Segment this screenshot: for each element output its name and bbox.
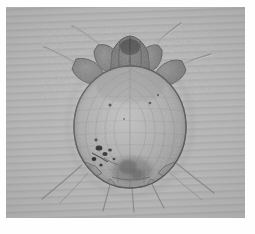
plate-border-left: [0, 0, 6, 234]
mite-specimen: [6, 7, 245, 218]
photomicrograph-page: [0, 0, 255, 234]
plate-border-bottom: [0, 218, 255, 234]
microscope-field: [6, 7, 245, 218]
plate-border-right: [245, 0, 255, 234]
plate-border-top: [0, 0, 255, 7]
anal-region-shading: [112, 157, 152, 183]
